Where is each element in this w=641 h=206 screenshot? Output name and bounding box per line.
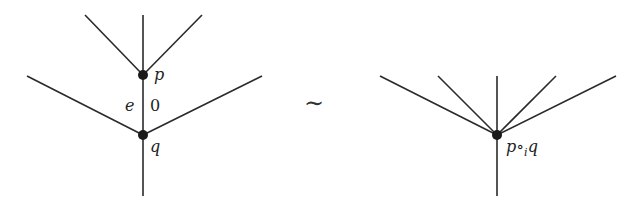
composed-input-edge-1 bbox=[380, 76, 497, 135]
q-input-edge-right bbox=[143, 76, 262, 135]
label-q: q bbox=[150, 137, 160, 156]
label-composition-main: p∘ bbox=[506, 137, 524, 156]
label-edge-e: e bbox=[125, 96, 134, 115]
node-p-circ-i-q bbox=[492, 130, 502, 140]
node-p bbox=[138, 70, 148, 80]
equivalence-symbol: ∼ bbox=[304, 89, 324, 117]
p-input-edge-right bbox=[143, 15, 202, 75]
right-tree: p∘iq bbox=[380, 76, 616, 196]
label-composition: p∘iq bbox=[506, 137, 538, 159]
label-composition-end: q bbox=[528, 137, 538, 156]
label-p: p bbox=[154, 65, 164, 84]
composed-input-edge-2 bbox=[438, 76, 497, 135]
left-tree: p q e 0 bbox=[27, 15, 262, 196]
composed-input-edge-4 bbox=[497, 76, 556, 135]
p-input-edge-left bbox=[85, 15, 143, 75]
label-edge-0: 0 bbox=[150, 96, 160, 115]
tree-composition-diagram: p q e 0 ∼ p∘iq bbox=[0, 0, 641, 206]
composed-input-edge-5 bbox=[497, 76, 616, 135]
node-q bbox=[138, 130, 148, 140]
